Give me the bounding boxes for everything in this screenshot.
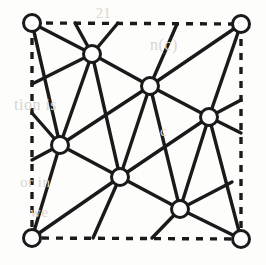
corner-vertex-node <box>24 230 41 247</box>
interior-vertex-node <box>172 201 189 218</box>
periodic-triangulation-diagram <box>0 0 266 265</box>
interior-vertex-node <box>142 78 159 95</box>
interior-vertex-node <box>112 169 129 186</box>
corner-vertex-node <box>233 16 250 33</box>
interior-vertex-node <box>52 137 69 154</box>
corner-vertex-node <box>233 231 250 248</box>
interior-vertex-node <box>84 46 101 63</box>
triangulation-figure: n(c)tion iscor inwe21 <box>0 0 266 265</box>
corner-vertex-node <box>24 15 41 32</box>
interior-vertex-node <box>201 109 218 126</box>
